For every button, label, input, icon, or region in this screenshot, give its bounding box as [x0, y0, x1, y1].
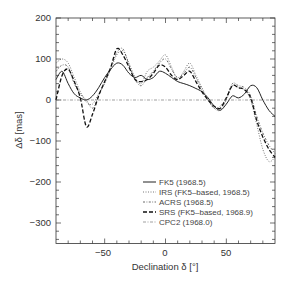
y-tick-label: −100: [30, 135, 51, 146]
y-axis-title: Δδ [mas]: [13, 111, 24, 149]
series-line-irs: [56, 50, 275, 161]
legend-label: IRS (FK5–based, 1968.5): [159, 188, 250, 197]
legend-label: ACRS (1968.5): [159, 198, 214, 207]
y-tick-label: −300: [30, 217, 51, 228]
y-tick-label: −200: [30, 176, 51, 187]
series-line-fk5: [56, 63, 275, 117]
x-axis-title: Declination δ [°]: [132, 261, 199, 272]
series-lines: [56, 48, 275, 162]
legend-label: SRS (FK5–based, 1968.9): [159, 208, 253, 217]
y-tick-label: 200: [35, 12, 51, 23]
series-line-acrs: [56, 48, 275, 153]
legend-label: FK5 (1968.5): [159, 178, 206, 187]
x-tick-label: 0: [162, 247, 167, 258]
series-line-srs: [56, 48, 275, 157]
legend-label: CPC2 (1968.0): [159, 218, 213, 227]
chart: 200 100 0 −100 −200 −300 −50 0 50 Declin…: [0, 0, 290, 282]
y-tick-label: 100: [35, 53, 51, 64]
x-tick-label: −50: [95, 247, 111, 258]
y-tick-label: 0: [46, 94, 51, 105]
x-tick-label: 50: [221, 247, 232, 258]
legend: FK5 (1968.5) IRS (FK5–based, 1968.5) ACR…: [143, 178, 253, 227]
